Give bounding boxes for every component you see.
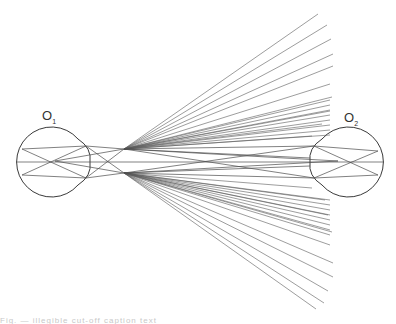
ray (124, 173, 330, 210)
ray (86, 146, 124, 149)
ray (124, 173, 330, 230)
ray (124, 115, 330, 149)
caption: Fig. — illegible cut-off caption text (0, 316, 396, 324)
ray (124, 173, 333, 277)
fan-rays (124, 14, 333, 309)
ray (124, 161, 338, 173)
ray (124, 173, 328, 291)
ray (22, 146, 86, 175)
right-eye-label-main: O (344, 110, 354, 125)
ray (124, 173, 316, 309)
ray (314, 151, 378, 178)
ray (124, 14, 318, 149)
right-eye-label-sub: 2 (354, 120, 358, 127)
ray (22, 146, 86, 149)
central-rays (90, 146, 338, 178)
ray (124, 166, 310, 173)
ray (124, 110, 330, 149)
right-eye-label: O2 (344, 110, 358, 127)
ray (22, 149, 86, 178)
left-eye-label-main: O (42, 108, 52, 123)
left-eye-label: O1 (42, 108, 56, 125)
ray (124, 173, 324, 303)
ray (124, 97, 332, 149)
ray (314, 175, 378, 178)
ray (124, 54, 333, 149)
ray (124, 173, 330, 235)
optics-diagram (0, 0, 396, 324)
ray (22, 175, 86, 178)
left-eye-label-sub: 1 (52, 118, 56, 125)
